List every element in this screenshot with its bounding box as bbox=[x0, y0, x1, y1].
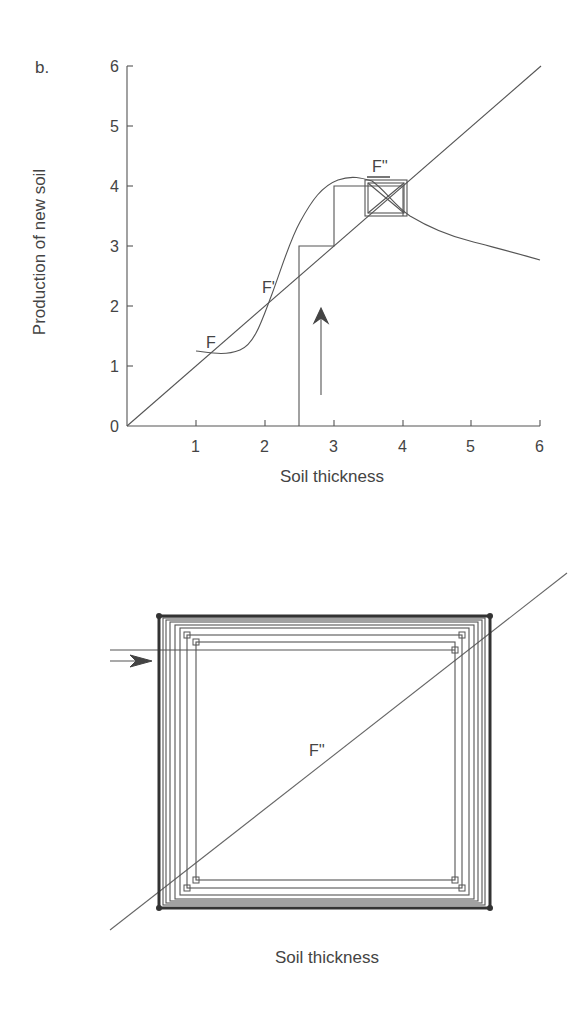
x-tick-6: 6 bbox=[535, 438, 544, 455]
right-arrow-icon bbox=[110, 655, 152, 667]
nested-cobweb-rectangles bbox=[163, 618, 485, 905]
lower-chart bbox=[110, 573, 567, 930]
y-tick-3: 3 bbox=[110, 238, 119, 255]
x-tick-2: 2 bbox=[260, 438, 269, 455]
figure: 6 5 4 3 2 1 0 1 2 3 4 5 6 F F' F'' bbox=[0, 0, 569, 1012]
y-tick-4: 4 bbox=[110, 178, 119, 195]
y-tick-1: 1 bbox=[110, 358, 119, 375]
y-tick-6: 6 bbox=[110, 58, 119, 75]
corner-markers bbox=[184, 632, 465, 891]
y-tick-2: 2 bbox=[110, 298, 119, 315]
x-tick-1: 1 bbox=[191, 438, 200, 455]
label-F-double-prime: F'' bbox=[372, 158, 388, 175]
cobweb-path bbox=[299, 186, 403, 426]
up-arrow-icon bbox=[314, 308, 328, 395]
label-F: F bbox=[206, 334, 216, 351]
upper-tick-labels: 6 5 4 3 2 1 0 1 2 3 4 5 6 F F' F'' bbox=[110, 58, 544, 455]
upper-chart bbox=[127, 66, 541, 426]
x-tick-3: 3 bbox=[329, 438, 338, 455]
y-ticks bbox=[127, 126, 133, 366]
y-tick-0: 0 bbox=[110, 418, 119, 435]
label-F-double-prime-lower: F'' bbox=[309, 742, 325, 759]
label-F-prime: F' bbox=[262, 279, 275, 296]
x-tick-5: 5 bbox=[466, 438, 475, 455]
x-tick-4: 4 bbox=[398, 438, 407, 455]
y-tick-5: 5 bbox=[110, 118, 119, 135]
one-to-one-line-lower bbox=[110, 573, 567, 930]
oscillation-box bbox=[365, 177, 407, 216]
x-ticks bbox=[196, 420, 540, 426]
